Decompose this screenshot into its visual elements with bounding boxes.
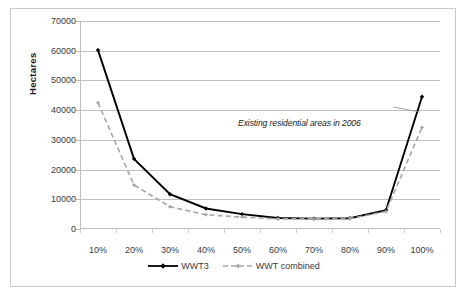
dashed-line-with-marker-icon	[223, 261, 253, 271]
chart-legend: WWT3 WWT combined	[11, 261, 457, 271]
x-tick-mark	[260, 229, 261, 233]
y-axis-title: Hectares	[27, 52, 38, 95]
y-tick-label: 30000	[14, 135, 76, 145]
plot-area: Existing residential areas in 2006 10% 2…	[80, 21, 440, 229]
x-tick-mark	[116, 229, 117, 233]
legend-item-wwt3[interactable]: WWT3	[148, 261, 209, 271]
y-tick-label: 70000	[14, 16, 76, 26]
legend-label: WWT3	[181, 261, 209, 271]
solid-line-with-marker-icon	[148, 261, 178, 271]
chart-frame: Hectares 70000 60000 50000 40000 30000 2…	[10, 8, 456, 287]
chart-figure: Hectares 70000 60000 50000 40000 30000 2…	[0, 0, 467, 302]
x-tick-label: 100%	[400, 245, 444, 255]
legend-label: WWT combined	[256, 261, 320, 271]
y-tick-label: 0	[14, 224, 76, 234]
x-tick-mark	[332, 229, 333, 233]
y-tick-label: 60000	[14, 46, 76, 56]
x-tick-mark	[80, 229, 81, 233]
x-tick-mark	[296, 229, 297, 233]
y-tick-label: 20000	[14, 165, 76, 175]
x-tick-mark	[152, 229, 153, 233]
x-tick-mark	[440, 229, 441, 233]
x-tick-mark	[368, 229, 369, 233]
annotation-leader-line	[80, 21, 440, 229]
legend-item-wwt-combined[interactable]: WWT combined	[223, 261, 320, 271]
y-tick-label: 40000	[14, 105, 76, 115]
x-tick-mark	[224, 229, 225, 233]
y-axis-labels: Hectares 70000 60000 50000 40000 30000 2…	[11, 9, 76, 288]
y-tick-label: 50000	[14, 75, 76, 85]
x-tick-mark	[188, 229, 189, 233]
x-tick-mark	[404, 229, 405, 233]
y-tick-label: 10000	[14, 194, 76, 204]
